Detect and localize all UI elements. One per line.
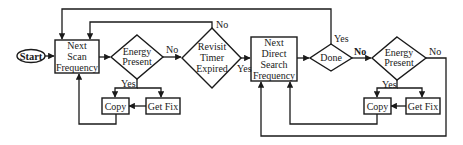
get-fix-1-label: Get Fix (148, 101, 178, 112)
next-scan-line-1: Next (67, 40, 87, 51)
edge-revisit-no-to-nextscan (90, 22, 212, 39)
energy2-no-label: No (429, 46, 441, 57)
revisit-yes-label: Yes (237, 63, 252, 74)
energy2-line-2: Present (384, 57, 414, 68)
energy-present-1-node: Energy Present (111, 35, 163, 79)
revisit-no-label: No (216, 19, 228, 30)
energy-present-2-node: Energy Present (372, 37, 426, 80)
revisit-timer-expired-node: Revisit Timer Expired (182, 28, 241, 88)
get-fix-1-node: Get Fix (146, 98, 180, 114)
edge-energy2-to-getfix2 (397, 88, 422, 97)
get-fix-2-label: Get Fix (408, 101, 438, 112)
energy2-yes-label: Yes (382, 79, 397, 90)
next-direct-line-2: Direct (262, 48, 287, 59)
edge-energy1-to-getfix1 (137, 88, 161, 97)
next-direct-line-3: Search (260, 59, 287, 70)
next-direct-search-frequency-node: Next Direct Search Frequency (251, 37, 297, 81)
start-label: Start (20, 51, 43, 62)
next-direct-line-1: Next (264, 37, 284, 48)
copy-2-node: Copy (364, 98, 391, 114)
revisit-line-2: Timer (200, 52, 225, 63)
next-direct-line-4: Frequency (253, 70, 295, 81)
revisit-line-1: Revisit (198, 41, 227, 52)
energy1-yes-label: Yes (121, 78, 136, 89)
copy-1-node: Copy (102, 98, 129, 114)
done-node: Done (310, 44, 352, 71)
copy-2-label: Copy (367, 101, 389, 112)
start-node: Start (17, 50, 45, 63)
next-scan-frequency-node: Next Scan Frequency (55, 40, 99, 73)
done-no-label: No (354, 46, 366, 57)
copy-1-label: Copy (105, 101, 127, 112)
revisit-line-3: Expired (196, 63, 228, 74)
flowchart-canvas: Start Next Scan Frequency Energy Present… (0, 0, 463, 145)
next-scan-line-2: Scan (67, 51, 86, 62)
energy1-no-label: No (166, 44, 178, 55)
energy1-line-2: Present (122, 56, 152, 67)
done-label: Done (320, 52, 342, 63)
next-scan-line-3: Frequency (56, 62, 98, 73)
done-yes-label: Yes (334, 33, 349, 44)
get-fix-2-node: Get Fix (406, 98, 440, 114)
